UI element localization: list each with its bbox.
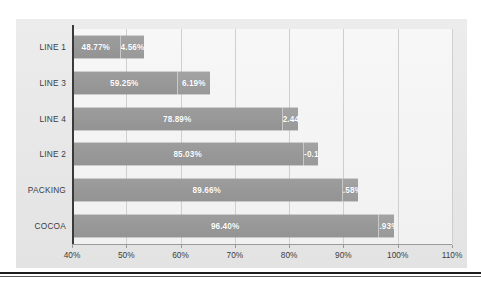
x-tick-label: 110% bbox=[442, 250, 463, 260]
bar-segment-base[interactable]: 85.03% bbox=[72, 143, 303, 166]
category-label: LINE 1 bbox=[16, 42, 66, 52]
bar-row: COCOA96.40%2.93% bbox=[16, 208, 467, 244]
stacked-bar[interactable]: 85.03%-0.1 bbox=[72, 143, 318, 166]
bar-segment-delta[interactable]: 6.19% bbox=[177, 71, 211, 94]
bar-segment-base[interactable]: 59.25% bbox=[72, 71, 177, 94]
bar-value-label: 85.03% bbox=[173, 150, 201, 159]
x-axis-ticks: 40%50%60%70%80%90%100%110% bbox=[72, 245, 452, 265]
bottom-divider-rule bbox=[0, 272, 481, 274]
bar-segment-base[interactable]: 48.77% bbox=[72, 35, 120, 58]
x-tick-mark bbox=[126, 245, 127, 248]
bar-value-label: 59.25% bbox=[110, 78, 138, 87]
bar-delta-label: 4.56% bbox=[120, 42, 145, 51]
bar-delta-label: 2.58% bbox=[342, 186, 358, 195]
x-tick-label: 40% bbox=[64, 250, 81, 260]
stacked-bar[interactable]: 89.66%2.58% bbox=[72, 179, 358, 202]
x-tick-mark bbox=[72, 245, 73, 248]
bar-rows: LINE 148.77%4.56%LINE 359.25%6.19%LINE 4… bbox=[16, 19, 467, 244]
x-tick-mark bbox=[235, 245, 236, 248]
bar-delta-label: -0.1 bbox=[303, 150, 318, 159]
slide-canvas: LINE 148.77%4.56%LINE 359.25%6.19%LINE 4… bbox=[0, 0, 481, 284]
x-tick-mark bbox=[452, 245, 453, 248]
stacked-bar[interactable]: 96.40%2.93% bbox=[72, 215, 394, 238]
bar-segment-delta[interactable]: 4.56% bbox=[120, 35, 145, 58]
stacked-bar[interactable]: 48.77%4.56% bbox=[72, 35, 144, 58]
category-label: LINE 4 bbox=[16, 114, 66, 124]
x-tick-label: 90% bbox=[335, 250, 352, 260]
bar-segment-base[interactable]: 78.89% bbox=[72, 107, 282, 130]
category-axis-line bbox=[72, 25, 74, 244]
bar-value-label: 96.40% bbox=[211, 222, 239, 231]
bar-segment-base[interactable]: 89.66% bbox=[72, 179, 342, 202]
bar-value-label: 89.66% bbox=[193, 186, 221, 195]
x-tick-label: 50% bbox=[118, 250, 135, 260]
category-label: PACKING bbox=[16, 185, 66, 195]
x-tick-label: 70% bbox=[227, 250, 244, 260]
stacked-bar[interactable]: 59.25%6.19% bbox=[72, 71, 210, 94]
category-label: LINE 3 bbox=[16, 78, 66, 88]
bar-delta-label: 2.44 bbox=[282, 114, 298, 123]
bar-segment-delta[interactable]: 2.93% bbox=[378, 215, 394, 238]
x-tick-mark bbox=[343, 245, 344, 248]
bar-delta-label: 6.19% bbox=[181, 78, 207, 87]
x-tick-label: 80% bbox=[281, 250, 298, 260]
x-tick-label: 60% bbox=[172, 250, 189, 260]
bar-row: LINE 359.25%6.19% bbox=[16, 65, 467, 101]
bar-value-label: 48.77% bbox=[82, 42, 110, 51]
x-tick-label: 100% bbox=[387, 250, 408, 260]
x-tick-mark bbox=[289, 245, 290, 248]
chart-panel: LINE 148.77%4.56%LINE 359.25%6.19%LINE 4… bbox=[16, 19, 467, 268]
x-tick-mark bbox=[181, 245, 182, 248]
bar-row: LINE 285.03%-0.1 bbox=[16, 137, 467, 173]
bar-delta-label: 2.93% bbox=[378, 222, 394, 231]
bar-value-label: 78.89% bbox=[163, 114, 191, 123]
bar-row: PACKING89.66%2.58% bbox=[16, 172, 467, 208]
bar-row: LINE 478.89%2.44 bbox=[16, 101, 467, 137]
bar-segment-delta[interactable]: -0.1 bbox=[303, 143, 318, 166]
stacked-bar[interactable]: 78.89%2.44 bbox=[72, 107, 298, 130]
bar-segment-delta[interactable]: 2.44 bbox=[282, 107, 298, 130]
bar-segment-delta[interactable]: 2.58% bbox=[342, 179, 358, 202]
category-label: LINE 2 bbox=[16, 149, 66, 159]
x-tick-mark bbox=[398, 245, 399, 248]
bar-segment-base[interactable]: 96.40% bbox=[72, 215, 378, 238]
bar-row: LINE 148.77%4.56% bbox=[16, 29, 467, 65]
bottom-divider-rule-secondary bbox=[0, 276, 481, 277]
category-label: COCOA bbox=[16, 221, 66, 231]
